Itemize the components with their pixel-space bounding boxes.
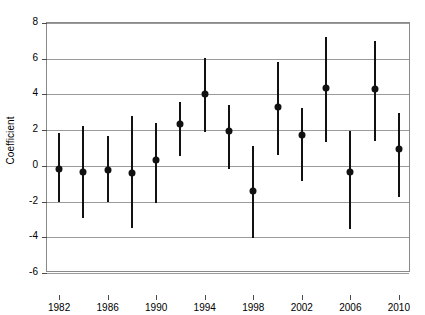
y-axis-tick: -6 (1, 273, 47, 274)
x-tick-label: 2002 (282, 302, 322, 313)
x-tick-mark (350, 295, 351, 300)
data-point-marker (274, 103, 281, 110)
y-tick-label: -4 (29, 230, 38, 242)
data-point-marker (347, 169, 354, 176)
y-gridline (47, 202, 409, 203)
y-gridline (47, 273, 409, 274)
data-point-marker (80, 169, 87, 176)
data-point-marker (201, 90, 208, 97)
y-axis-tick: 8 (1, 23, 47, 24)
x-tick-mark (302, 295, 303, 300)
y-tick-mark (42, 273, 47, 274)
confidence-interval-bar (155, 123, 157, 203)
confidence-interval-bar (301, 108, 303, 181)
data-point-marker (153, 156, 160, 163)
x-tick-label: 1990 (136, 302, 176, 313)
data-point-marker (226, 128, 233, 135)
y-tick-mark (42, 130, 47, 131)
data-point-marker (128, 170, 135, 177)
y-tick-label: 6 (32, 52, 38, 64)
x-tick-mark (59, 295, 60, 300)
confidence-interval-bar (398, 113, 400, 197)
x-tick-label: 2006 (330, 302, 370, 313)
y-axis-tick: -2 (1, 202, 47, 203)
data-point-marker (56, 165, 63, 172)
x-tick-mark (253, 295, 254, 300)
y-tick-mark (42, 237, 47, 238)
confidence-interval-bar (349, 131, 351, 229)
data-point-marker (250, 187, 257, 194)
y-gridline (47, 94, 409, 95)
confidence-interval-bar (179, 102, 181, 156)
x-tick-mark (156, 295, 157, 300)
data-point-marker (395, 145, 402, 152)
confidence-interval-bar (228, 105, 230, 169)
y-tick-mark (42, 94, 47, 95)
y-gridline (47, 59, 409, 60)
x-tick-label: 2010 (379, 302, 419, 313)
y-tick-mark (42, 166, 47, 167)
x-tick-mark (108, 295, 109, 300)
data-point-marker (298, 131, 305, 138)
y-axis-tick: 6 (1, 59, 47, 60)
x-tick-mark (205, 295, 206, 300)
data-point-marker (177, 120, 184, 127)
y-gridline (47, 23, 409, 24)
y-axis-tick: 4 (1, 94, 47, 95)
y-axis-tick: -4 (1, 237, 47, 238)
data-point-marker (104, 167, 111, 174)
x-tick-mark (399, 295, 400, 300)
y-tick-label: 4 (32, 87, 38, 99)
y-gridline (47, 237, 409, 238)
x-tick-label: 1998 (233, 302, 273, 313)
y-tick-label: 0 (32, 159, 38, 171)
y-tick-label: -2 (29, 195, 38, 207)
y-tick-mark (42, 23, 47, 24)
y-tick-label: 8 (32, 16, 38, 28)
plot-area: 86420-2-4-619821986199019941998200220062… (46, 22, 410, 272)
y-tick-label: 2 (32, 123, 38, 135)
y-tick-mark (42, 59, 47, 60)
data-point-marker (371, 86, 378, 93)
x-tick-label: 1986 (88, 302, 128, 313)
y-tick-mark (42, 202, 47, 203)
x-tick-label: 1982 (39, 302, 79, 313)
data-point-marker (323, 85, 330, 92)
y-axis-tick: 0 (1, 166, 47, 167)
y-axis-title-text: Coefficient (5, 116, 16, 164)
coefficient-error-bar-chart: Coefficient 86420-2-4-619821986199019941… (0, 0, 425, 315)
y-axis-tick: 2 (1, 130, 47, 131)
y-tick-label: -6 (29, 266, 38, 278)
x-tick-label: 1994 (185, 302, 225, 313)
